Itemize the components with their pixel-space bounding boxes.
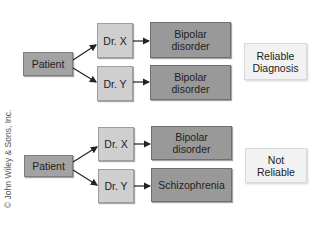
diagnosis-y-label: Bipolar disorder — [167, 71, 214, 95]
doctor-x-box-top: Dr. X — [97, 23, 133, 58]
doctor-x-label: Dr. X — [104, 138, 127, 150]
verdict-box-bottom: Not Reliable — [245, 148, 307, 183]
diagnosis-x-box-top: Bipolar disorder — [150, 22, 231, 58]
diagnosis-y-box-top: Bipolar disorder — [150, 65, 231, 100]
verdict-label: Reliable Diagnosis — [251, 50, 300, 74]
verdict-box-top: Reliable Diagnosis — [244, 43, 307, 80]
verdict-label: Not Reliable — [256, 154, 296, 178]
doctor-y-label: Dr. Y — [103, 78, 126, 90]
diagnosis-y-label: Schizophrenia — [158, 179, 225, 191]
doctor-x-box-bottom: Dr. X — [98, 127, 134, 161]
patient-label: Patient — [32, 160, 65, 172]
diagnosis-x-label: Bipolar disorder — [167, 28, 214, 52]
diagnosis-x-label: Bipolar disorder — [168, 131, 215, 155]
doctor-y-box-top: Dr. Y — [97, 66, 133, 101]
copyright-notice: © John Wiley & Sons, Inc. — [3, 110, 13, 208]
patient-label: Patient — [32, 58, 65, 70]
doctor-y-label: Dr. Y — [104, 180, 127, 192]
patient-box-top: Patient — [23, 52, 73, 76]
doctor-y-box-bottom: Dr. Y — [98, 169, 134, 203]
doctor-x-label: Dr. X — [103, 35, 126, 47]
diagnosis-x-box-bottom: Bipolar disorder — [151, 126, 232, 160]
patient-box-bottom: Patient — [24, 155, 73, 177]
diagnosis-y-box-bottom: Schizophrenia — [151, 168, 232, 202]
